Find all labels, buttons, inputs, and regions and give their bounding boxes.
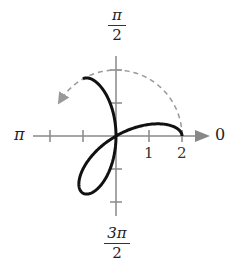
label-pi-over-2: π 2: [108, 8, 126, 43]
label-pi: π: [14, 127, 25, 143]
label-3pi-over-2: 3π 2: [104, 226, 130, 261]
label-zero: 0: [215, 127, 225, 143]
tick-label-1: 1: [144, 144, 154, 162]
tick-label-2: 2: [177, 144, 187, 162]
